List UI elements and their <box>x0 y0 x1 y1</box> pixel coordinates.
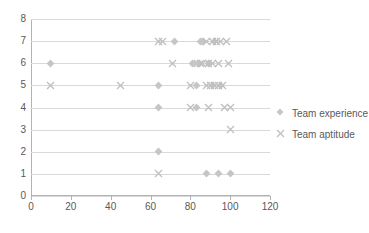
data-point-team-aptitude <box>46 81 55 90</box>
gridline-y-8 <box>31 19 270 20</box>
x-tick-mark <box>190 196 191 200</box>
data-point-team-aptitude <box>168 59 177 68</box>
data-point-team-aptitude <box>186 81 195 90</box>
data-point-team-experience <box>154 81 163 90</box>
y-tick-label: 6 <box>4 58 26 68</box>
x-tick-label: 0 <box>16 202 46 212</box>
legend-item[interactable]: Team experience <box>276 103 368 124</box>
x-tick-label: 40 <box>96 202 126 212</box>
gridline-y-6 <box>31 63 270 64</box>
y-axis-tick-labels: 012345678 <box>0 0 26 233</box>
legend-item[interactable]: Team aptitude <box>276 124 368 145</box>
y-tick-label: 5 <box>4 80 26 90</box>
legend-label: Team experience <box>292 108 368 119</box>
x-tick-mark <box>230 196 231 200</box>
x-tick-label: 20 <box>56 202 86 212</box>
y-tick-label: 8 <box>4 14 26 24</box>
gridline-y-7 <box>31 41 270 42</box>
x-tick-mark <box>71 196 72 200</box>
y-tick-label: 0 <box>4 191 26 201</box>
data-point-team-aptitude <box>186 103 195 112</box>
chart-legend: Team experienceTeam aptitude <box>276 103 368 145</box>
y-tick-label: 3 <box>4 125 26 135</box>
data-point-team-aptitude <box>222 37 231 46</box>
x-tick-label: 60 <box>136 202 166 212</box>
data-point-team-aptitude <box>226 125 235 134</box>
data-point-team-aptitude <box>158 37 167 46</box>
x-tick-mark <box>31 196 32 200</box>
y-tick-label: 7 <box>4 36 26 46</box>
data-point-team-aptitude <box>218 81 227 90</box>
y-tick-label: 2 <box>4 147 26 157</box>
x-tick-mark <box>111 196 112 200</box>
x-tick-mark <box>270 196 271 200</box>
x-tick-label: 120 <box>255 202 285 212</box>
data-point-team-experience <box>226 169 235 178</box>
x-axis-tick-labels: 020406080100120 <box>31 202 270 216</box>
cross-marker-icon <box>276 129 288 140</box>
data-point-team-aptitude <box>226 103 235 112</box>
x-tick-label: 100 <box>215 202 245 212</box>
x-tick-label: 80 <box>175 202 205 212</box>
data-point-team-experience <box>214 169 223 178</box>
scatter-chart: 012345678 020406080100120 Team experienc… <box>0 0 369 233</box>
data-point-team-aptitude <box>214 59 223 68</box>
data-point-team-aptitude <box>204 103 213 112</box>
data-point-team-aptitude <box>154 169 163 178</box>
legend-label: Team aptitude <box>292 129 355 140</box>
data-point-team-aptitude <box>224 59 233 68</box>
y-tick-label: 4 <box>4 103 26 113</box>
gridline-y-5 <box>31 85 270 86</box>
data-point-team-experience <box>154 103 163 112</box>
data-point-team-experience <box>202 169 211 178</box>
data-point-team-experience <box>170 37 179 46</box>
data-point-team-experience <box>154 147 163 156</box>
plot-area <box>31 19 270 196</box>
gridline-y-2 <box>31 152 270 153</box>
y-tick-label: 1 <box>4 169 26 179</box>
data-point-team-experience <box>46 59 55 68</box>
diamond-marker-icon <box>276 108 288 119</box>
x-tick-mark <box>151 196 152 200</box>
data-point-team-aptitude <box>116 81 125 90</box>
